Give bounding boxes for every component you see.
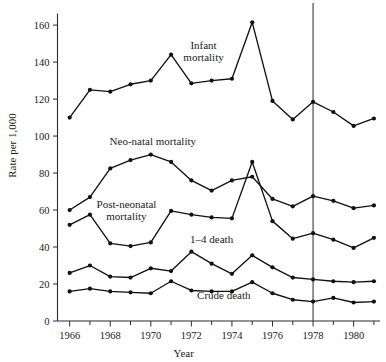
- data-point-post-neonatal-mortality: [372, 236, 376, 240]
- data-point-post-neonatal-mortality: [311, 231, 315, 235]
- data-point-crude-death: [291, 298, 295, 302]
- y-tick-label: 140: [34, 57, 50, 68]
- data-point-crude-death: [372, 299, 376, 303]
- data-point-1-4-death: [169, 269, 173, 273]
- data-point-post-neonatal-mortality: [189, 213, 193, 217]
- data-point-infant-mortality: [331, 110, 335, 114]
- data-point-post-neonatal-mortality: [291, 237, 295, 241]
- chart-canvas: 0204060801001201401601966196819701972197…: [0, 0, 386, 362]
- data-point-crude-death: [311, 299, 315, 303]
- series-infant-mortality: [68, 20, 376, 128]
- data-point-1-4-death: [230, 272, 234, 276]
- data-point-1-4-death: [331, 279, 335, 283]
- axis-titles-layer: YearRate per 1,000: [6, 113, 194, 359]
- data-point-neo-natal-mortality: [250, 175, 254, 179]
- mortality-rates-chart-figure: 0204060801001201401601966196819701972197…: [0, 0, 386, 362]
- data-point-post-neonatal-mortality: [88, 213, 92, 217]
- x-tick-label: 1966: [59, 330, 80, 341]
- x-tick-label: 1974: [221, 330, 243, 341]
- series-annotations-layer: InfantmortalityNeo-natal mortalityPost-n…: [97, 39, 252, 301]
- data-point-1-4-death: [68, 271, 72, 275]
- y-tick-label: 160: [34, 20, 50, 31]
- data-point-1-4-death: [372, 279, 376, 283]
- y-tick-label: 60: [39, 205, 50, 216]
- data-point-infant-mortality: [311, 100, 315, 104]
- data-point-infant-mortality: [88, 88, 92, 92]
- y-tick-label: 0: [44, 316, 49, 327]
- data-point-infant-mortality: [128, 82, 132, 86]
- x-tick-label: 1972: [181, 330, 202, 341]
- data-point-infant-mortality: [189, 81, 193, 85]
- data-point-crude-death: [352, 300, 356, 304]
- data-point-1-4-death: [210, 262, 214, 266]
- data-point-post-neonatal-mortality: [210, 215, 214, 219]
- series-label-crude-death: Crude death: [197, 289, 251, 301]
- data-point-1-4-death: [291, 275, 295, 279]
- x-tick-label: 1976: [262, 330, 283, 341]
- data-point-crude-death: [169, 279, 173, 283]
- data-point-neo-natal-mortality: [331, 199, 335, 203]
- data-point-crude-death: [149, 291, 153, 295]
- y-tick-label: 120: [34, 94, 50, 105]
- data-point-neo-natal-mortality: [270, 197, 274, 201]
- data-point-neo-natal-mortality: [68, 208, 72, 212]
- data-point-infant-mortality: [149, 78, 153, 82]
- data-point-1-4-death: [270, 265, 274, 269]
- data-point-infant-mortality: [169, 53, 173, 57]
- data-point-1-4-death: [352, 280, 356, 284]
- data-point-1-4-death: [149, 266, 153, 270]
- data-point-post-neonatal-mortality: [270, 219, 274, 223]
- data-point-infant-mortality: [68, 115, 72, 119]
- y-tick-label: 40: [39, 242, 50, 253]
- data-point-post-neonatal-mortality: [331, 238, 335, 242]
- data-point-crude-death: [108, 289, 112, 293]
- data-point-infant-mortality: [210, 78, 214, 82]
- data-point-post-neonatal-mortality: [108, 241, 112, 245]
- data-point-1-4-death: [189, 250, 193, 254]
- data-point-crude-death: [331, 296, 335, 300]
- data-point-infant-mortality: [291, 117, 295, 121]
- data-point-post-neonatal-mortality: [250, 160, 254, 164]
- y-axis-title: Rate per 1,000: [6, 113, 18, 178]
- data-point-infant-mortality: [372, 116, 376, 120]
- data-point-post-neonatal-mortality: [230, 216, 234, 220]
- data-point-neo-natal-mortality: [169, 160, 173, 164]
- data-point-1-4-death: [250, 253, 254, 257]
- data-point-neo-natal-mortality: [291, 204, 295, 208]
- data-point-neo-natal-mortality: [108, 166, 112, 170]
- y-tick-label: 20: [39, 279, 50, 290]
- series-1-4-death: [68, 250, 376, 285]
- data-point-crude-death: [88, 287, 92, 291]
- series-line-infant-mortality: [70, 22, 374, 126]
- data-point-crude-death: [68, 289, 72, 293]
- data-point-neo-natal-mortality: [128, 158, 132, 162]
- series-line-1-4-death: [70, 252, 374, 283]
- data-point-infant-mortality: [352, 124, 356, 128]
- data-point-neo-natal-mortality: [352, 206, 356, 210]
- x-tick-label: 1968: [100, 330, 121, 341]
- y-tick-label: 80: [39, 168, 50, 179]
- data-point-post-neonatal-mortality: [169, 209, 173, 213]
- x-axis-title: Year: [174, 347, 195, 359]
- data-point-infant-mortality: [108, 90, 112, 94]
- series-label-infant-mortality: Infantmortality: [183, 39, 224, 63]
- data-point-1-4-death: [88, 263, 92, 267]
- data-point-neo-natal-mortality: [210, 189, 214, 193]
- data-point-1-4-death: [108, 275, 112, 279]
- data-point-post-neonatal-mortality: [128, 244, 132, 248]
- series-label-neo-natal-mortality: Neo-natal mortality: [110, 135, 197, 147]
- data-point-infant-mortality: [270, 99, 274, 103]
- data-point-neo-natal-mortality: [372, 203, 376, 207]
- series-label-post-neonatal-mortality: Post-neonatalmortality: [97, 198, 157, 222]
- data-point-neo-natal-mortality: [311, 194, 315, 198]
- data-point-post-neonatal-mortality: [68, 223, 72, 227]
- y-tick-label: 100: [34, 131, 50, 142]
- data-point-post-neonatal-mortality: [149, 240, 153, 244]
- data-point-neo-natal-mortality: [149, 152, 153, 156]
- data-point-neo-natal-mortality: [189, 178, 193, 182]
- x-tick-label: 1978: [303, 330, 324, 341]
- data-point-1-4-death: [311, 277, 315, 281]
- data-point-neo-natal-mortality: [88, 195, 92, 199]
- x-tick-label: 1970: [140, 330, 161, 341]
- data-point-post-neonatal-mortality: [352, 246, 356, 250]
